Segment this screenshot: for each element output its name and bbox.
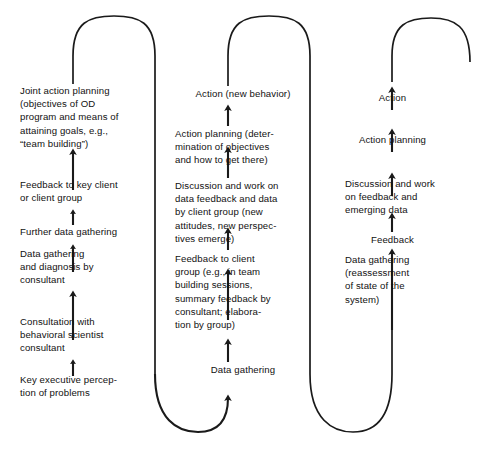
step-feedback-to-client-group: Feedback to client group (e.g., in team …: [175, 252, 311, 331]
step-key-executive-perception: Key executive percep- tion of problems: [20, 373, 160, 399]
connector-bottom-u-1: [155, 374, 228, 432]
step-data-gathering: Data gathering: [175, 363, 311, 376]
step-consultation-with-behavioral-scientist: Consultation with behavioral scientist c…: [20, 315, 160, 355]
step-action-new-behavior: Action (new behavior): [175, 87, 311, 100]
connector-top-arch-3-open: [392, 18, 470, 62]
step-data-gathering-and-diagnosis: Data gathering and diagnosis by consulta…: [20, 247, 160, 287]
step-further-data-gathering: Further data gathering: [20, 225, 160, 238]
od-cycle-diagram: Key executive percep- tion of problems C…: [0, 0, 489, 451]
step-feedback-to-key-client: Feedback to key client or client group: [20, 178, 160, 204]
step-joint-action-planning: Joint action planning (objectives of OD …: [20, 84, 160, 150]
step-action-planning-determination: Action planning (deter- mination of obje…: [175, 127, 311, 167]
connector-bottom-u-2: [310, 330, 392, 432]
step-action: Action: [345, 91, 440, 104]
step-discussion-and-work-on-feedback: Discussion and work on feedback and emer…: [345, 177, 475, 217]
step-action-planning: Action planning: [345, 133, 440, 146]
step-data-gathering-reassessment: Data gathering (reassessment of state of…: [345, 253, 475, 306]
step-feedback: Feedback: [345, 233, 440, 246]
step-discussion-and-work-on-data-feedback: Discussion and work on data feedback and…: [175, 179, 311, 245]
